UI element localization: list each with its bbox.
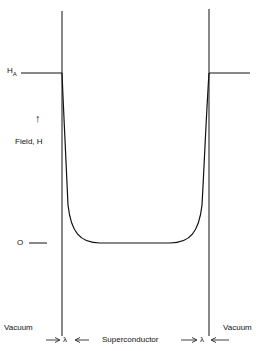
applied-field-label: HA: [7, 66, 17, 77]
superconductor-label: Superconductor: [102, 335, 158, 344]
field-diagram: [0, 0, 263, 351]
vacuum-right-label: Vacuum: [223, 323, 252, 332]
applied-field-subscript: A: [13, 71, 17, 77]
zero-label: O: [17, 238, 23, 247]
field-curve: [62, 73, 209, 243]
up-arrow-icon: ↑: [35, 112, 41, 124]
lambda-right-label: λ: [200, 335, 204, 344]
lambda-left-label: λ: [63, 335, 67, 344]
vacuum-left-label: Vacuum: [4, 323, 33, 332]
axis-label: Field, H: [15, 137, 43, 146]
